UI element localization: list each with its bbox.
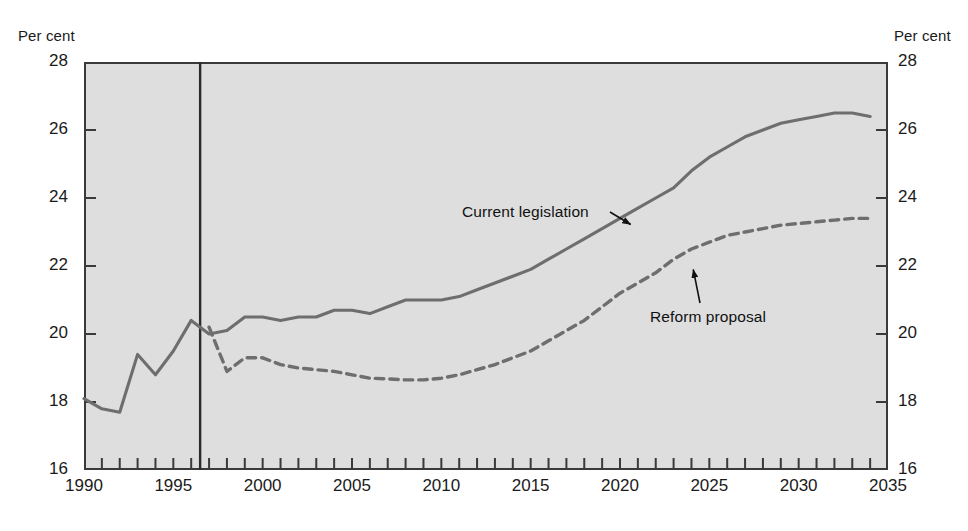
annotation-reform-proposal: Reform proposal	[650, 308, 766, 326]
annotation-current-legislation: Current legislation	[462, 203, 589, 221]
y-axis-title-right: Per cent	[894, 27, 951, 44]
x-tick-label: 2005	[322, 476, 382, 496]
x-tick-label: 2025	[679, 476, 739, 496]
chart-canvas: Per cent Per cent 16182022242628 1618202…	[0, 0, 968, 531]
plot-area	[84, 62, 888, 470]
y-tick-label: 18	[34, 391, 68, 411]
x-tick-label: 1990	[54, 476, 114, 496]
x-tick-label: 1995	[143, 476, 203, 496]
x-tick-label: 2020	[590, 476, 650, 496]
y-tick-label: 20	[898, 323, 932, 343]
y-tick-label: 28	[898, 51, 932, 71]
y-axis-title-left: Per cent	[18, 27, 75, 44]
y-tick-label: 18	[898, 391, 932, 411]
x-tick-label: 2000	[233, 476, 293, 496]
y-tick-label: 24	[898, 187, 932, 207]
x-tick-label: 2035	[858, 476, 918, 496]
y-tick-label: 24	[34, 187, 68, 207]
y-tick-label: 22	[898, 255, 932, 275]
y-tick-label: 26	[898, 119, 932, 139]
y-tick-label: 26	[34, 119, 68, 139]
x-tick-label: 2030	[769, 476, 829, 496]
y-tick-label: 20	[34, 323, 68, 343]
y-tick-label: 22	[34, 255, 68, 275]
x-tick-label: 2010	[411, 476, 471, 496]
y-tick-label: 28	[34, 51, 68, 71]
x-tick-label: 2015	[501, 476, 561, 496]
